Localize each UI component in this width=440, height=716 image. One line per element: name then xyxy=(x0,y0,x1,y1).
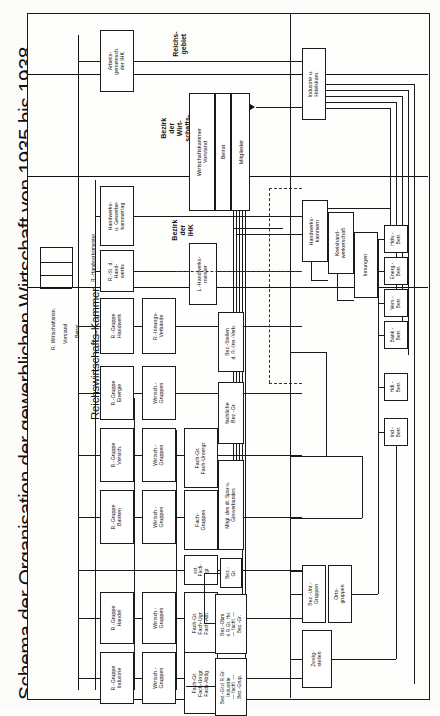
box-rgruppe-banken-text: R.-Gruppe Banken xyxy=(111,504,123,529)
conn-sst-left xyxy=(78,570,184,571)
box-industrie-handelskammer[interactable]: Industrie u. Hdelskam. xyxy=(302,48,326,120)
box-wirtschaftsgruppen-handel[interactable]: Wirtsch.- Gruppen xyxy=(142,592,176,644)
box-arbeitsgemeinschaft-ihk[interactable]: Arbeits- gemeinsch. der IHK xyxy=(100,30,134,92)
box-bank-betr[interactable]: Bank.- Betr. xyxy=(384,321,408,349)
conn-banken-mid xyxy=(134,517,142,518)
box-wk-beirat-text: Beirat xyxy=(220,145,226,160)
box-rgruppe-banken[interactable]: R.-Gruppe Banken xyxy=(100,490,134,544)
dashed-guide-vertical xyxy=(269,188,270,383)
conn-banken-left xyxy=(78,517,100,518)
conn-energie-mid xyxy=(134,393,142,394)
box-fachgr-industrie[interactable]: Fach-Gr. Fach-Untgr. Fach-Abtlg. xyxy=(184,652,218,714)
zone-reichsgebiet-line-1: gebiet xyxy=(180,14,188,74)
box-wk-beirat[interactable]: Beirat xyxy=(215,93,231,211)
box-fachgruppen-banken[interactable]: Fach- Gruppen xyxy=(184,490,218,550)
box-wirtschaftsgruppen-industrie[interactable]: Wirtsch.- Gruppen xyxy=(142,652,176,704)
ihk-bracket-2-top xyxy=(326,90,408,91)
ministry-rule-bottom xyxy=(40,288,72,289)
box-sst-fachgr[interactable]: sst. Fach- gr. xyxy=(184,555,218,585)
box-rgruppe-handel-text: R.-Gruppe Handel xyxy=(111,605,123,630)
box-fachliche-bez-gr[interactable]: fachliche Bez.-Gr. xyxy=(218,382,244,444)
conn-ortsgr-riser xyxy=(378,442,379,594)
box-rgruppe-energie[interactable]: R.-Gruppe Energie xyxy=(100,366,134,420)
conn-bezunt-left xyxy=(290,594,302,595)
box-ortsgruppen[interactable]: Orts- gruppen xyxy=(328,565,352,623)
box-rgruppe-handel[interactable]: R.-Gruppe Handel xyxy=(100,592,134,644)
box-energ-betr[interactable]: Energ.- Betr. xyxy=(384,257,408,285)
box-wk-mitglieder[interactable]: Mitglieder xyxy=(231,93,250,211)
handwerksmeister-line xyxy=(95,180,96,330)
box-l-handwerksmeister[interactable]: L.-Handwerks- meister xyxy=(189,243,217,305)
conn-energie-left xyxy=(78,393,100,394)
conn-zweig-right xyxy=(332,659,396,660)
box-bez-gr[interactable]: Bez.- Gr. xyxy=(220,558,242,588)
box-bez-unt-gruppen[interactable]: Bez.-Unt.- Gruppen xyxy=(302,565,326,623)
zone-ihk-line-0: Bezirk xyxy=(171,195,179,265)
ihk-bracket-4-top xyxy=(326,102,396,103)
box-wirtschaftskammer[interactable]: Wirtschaftskammer Vorstand xyxy=(189,93,215,211)
box-reichsstand-handwerk[interactable]: R.-St. d. Hand- werks xyxy=(100,250,134,292)
box-wirtschaftsgruppen-banken[interactable]: Wirtsch.- Gruppen xyxy=(142,490,176,544)
conn-bezgr-a xyxy=(204,573,220,574)
conn-versich-mid xyxy=(134,455,142,456)
ministry-rule-mid2 xyxy=(40,275,72,276)
box-mitgl-spar-giroverband[interactable]: Mitgl. des dt. Spar-u. Giroverbandes xyxy=(218,460,244,550)
box-handwerkskammern-text: Handwerks- kammern xyxy=(309,217,321,246)
box-hdl-betr[interactable]: Hdl.- Betr. xyxy=(384,373,408,401)
box-mitgl-spar-giro-text: Mitgl. des dt. Spar-u. Giroverbandes xyxy=(225,481,236,528)
box-rgruppe-handwerk[interactable]: R.-Gruppe Handwerk xyxy=(100,298,134,354)
conn-industrie-mid xyxy=(134,678,142,679)
box-zweigstellen[interactable]: Zweig- stellen xyxy=(302,630,332,688)
box-wirtschaftskammer-text: Wirtschaftskammer Vorstand xyxy=(196,128,208,176)
label-r-wirtschaftsmin: R. Wirtschaftsmin. xyxy=(50,308,56,350)
box-innungen[interactable]: Innungen xyxy=(354,232,378,298)
box-ind-betr-text: Ind.- Betr. xyxy=(390,427,402,438)
zone-label-reichsgebiet: Reichs- gebiet xyxy=(150,36,210,76)
box-zweigstellen-text: Zweig- stellen xyxy=(311,651,323,667)
conn-handel-left xyxy=(78,618,100,619)
group-bus-line xyxy=(134,398,135,690)
box-sst-fachgr-text: sst. Fach- gr. xyxy=(193,564,209,576)
box-wirtschaftsgruppen-versich[interactable]: Wirtsch.- Gruppen xyxy=(142,428,176,482)
box-fachgr-versich[interactable]: Fach-Gr. Fach-Untergr. xyxy=(184,428,218,488)
zone-reichsgebiet-line-0: Reichs- xyxy=(172,14,180,74)
box-handwerkskammern[interactable]: Handwerks- kammern xyxy=(302,200,328,262)
conn-bezgrind-a xyxy=(186,686,215,687)
secondary-spine-line xyxy=(95,330,96,690)
conn-hwkt-right xyxy=(134,216,302,217)
main-spine-line xyxy=(78,35,79,690)
box-r-innungsverbaende[interactable]: R.-Innungs- Verbände xyxy=(142,298,176,354)
betriebe-tap-4 xyxy=(378,335,384,336)
conn-rsthw-left xyxy=(95,271,100,272)
box-handwerkskammertag[interactable]: Handwerks- u. Gewerbe- kammertag xyxy=(100,186,134,246)
box-reichsstand-handwerk-text: R.-St. d. Hand- werks xyxy=(108,261,126,281)
box-rgruppe-industrie[interactable]: R.-Gruppe Industrie xyxy=(100,652,134,704)
box-kreishandwerkerschaft[interactable]: Kreishand- werkerschaft xyxy=(328,212,354,274)
box-vers-betr[interactable]: Vers.- Betr. xyxy=(384,289,408,317)
spine-tap-riser-b xyxy=(362,456,363,518)
box-hdw-betr[interactable]: Hdw.- Betr. xyxy=(384,225,408,253)
ministry-rule-top xyxy=(40,247,72,248)
dashed-guide-horizontal xyxy=(176,271,302,272)
box-rgruppe-industrie-text: R.-Gruppe Industrie xyxy=(111,665,123,690)
wk-fan-1 xyxy=(233,228,283,229)
box-bez-obm-handel[interactable]: Bez.-Obm. d.R.Gr. Hd. — fachl. — Bez.-Gr… xyxy=(215,594,247,654)
box-ortsgruppen-text: Orts- gruppen xyxy=(334,584,346,603)
betriebe-tap-6 xyxy=(378,432,384,433)
box-bez-stellen-innungsverband[interactable]: Bez.-Stellen d. R.-Inn.-Verb. xyxy=(218,312,244,372)
box-vers-betr-text: Vers.- Betr. xyxy=(390,296,402,310)
box-wirtschaftsgruppen-energie[interactable]: Wirtsch.- Gruppen xyxy=(142,366,176,420)
conn-industrie-mid2 xyxy=(176,678,184,679)
box-bez-gr-industrie[interactable]: Bez.-Gr.d R.Gr. Industrie — fachl. — Bez… xyxy=(215,658,247,716)
betriebe-tap-3 xyxy=(378,303,384,304)
box-ind-betr[interactable]: Ind.- Betr. xyxy=(384,418,408,446)
box-wg-handel-text: Wirtsch.- Gruppen xyxy=(153,607,165,628)
conn-bezobm-a xyxy=(204,623,215,624)
box-bez-gr-industrie-text: Bez.-Gr.d R.Gr. Industrie — fachl. — Bez… xyxy=(220,670,242,704)
conn-handel-mid2 xyxy=(176,618,184,619)
spine-tap-a xyxy=(290,352,326,353)
box-energ-betr-text: Energ.- Betr. xyxy=(390,262,402,279)
box-rgruppe-versich[interactable]: R.-Gruppe Versich. xyxy=(100,428,134,482)
conn-bez-riser-1 xyxy=(204,573,205,623)
